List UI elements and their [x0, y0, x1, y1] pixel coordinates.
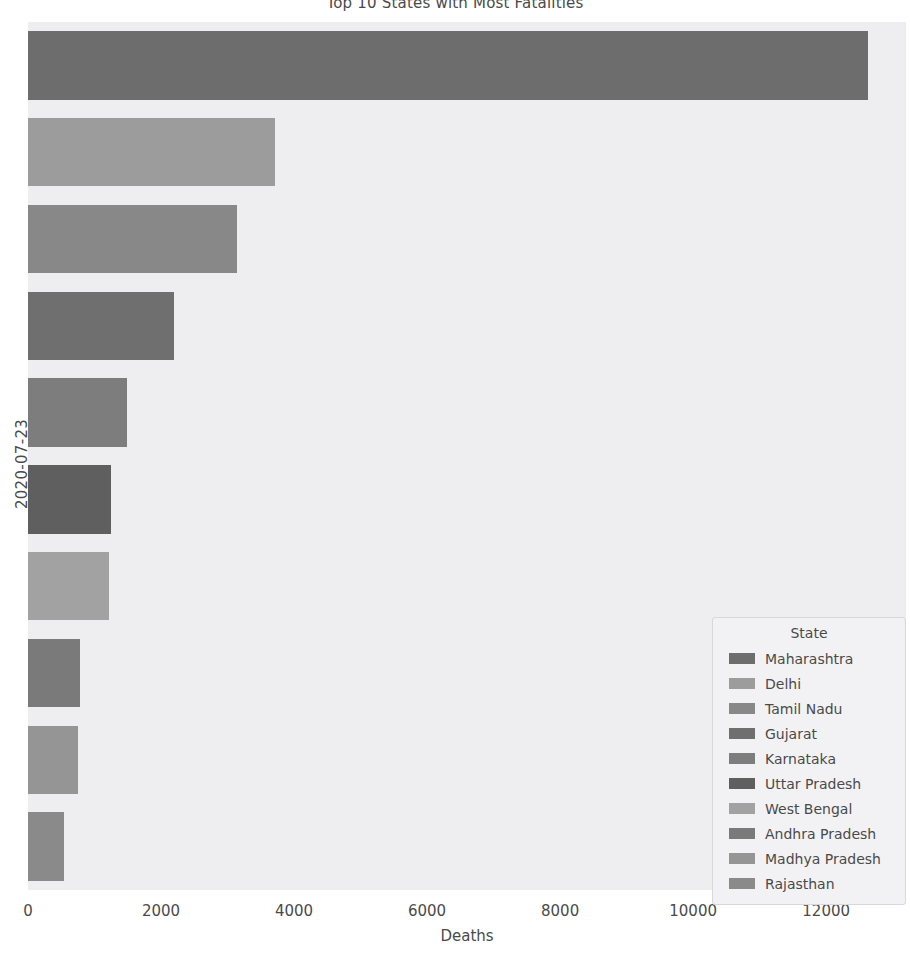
legend-item[interactable]: Delhi: [713, 671, 905, 696]
bar-delhi: [28, 118, 275, 187]
legend-item[interactable]: Tamil Nadu: [713, 696, 905, 721]
bar-gujarat: [28, 292, 174, 361]
x-axis-label: Deaths: [28, 927, 906, 945]
legend-item[interactable]: Gujarat: [713, 721, 905, 746]
legend-item-label: Uttar Pradesh: [765, 776, 861, 792]
legend-item-label: Maharashtra: [765, 651, 853, 667]
chart-figure: Top 10 States with Most Fatalities 2020-…: [0, 0, 910, 967]
legend-swatch-icon: [729, 703, 755, 714]
legend-swatch-icon: [729, 728, 755, 739]
legend-item-label: Rajasthan: [765, 876, 835, 892]
legend-swatch-icon: [729, 778, 755, 789]
x-tick-label: 6000: [408, 902, 446, 920]
legend-item[interactable]: West Bengal: [713, 796, 905, 821]
legend-item-label: Andhra Pradesh: [765, 826, 876, 842]
x-tick-label: 8000: [541, 902, 579, 920]
legend-swatch-icon: [729, 753, 755, 764]
bar-maharashtra: [28, 31, 868, 100]
x-tick-label: 4000: [275, 902, 313, 920]
legend-item[interactable]: Madhya Pradesh: [713, 846, 905, 871]
legend-item[interactable]: Uttar Pradesh: [713, 771, 905, 796]
bar-west-bengal: [28, 552, 109, 621]
legend-swatch-icon: [729, 828, 755, 839]
legend-swatch-icon: [729, 803, 755, 814]
legend-swatch-icon: [729, 853, 755, 864]
legend-item-label: West Bengal: [765, 801, 852, 817]
legend-item-label: Delhi: [765, 676, 801, 692]
bar-rajasthan: [28, 812, 64, 881]
bar-karnataka: [28, 378, 127, 447]
legend-item[interactable]: Karnataka: [713, 746, 905, 771]
legend-item-label: Tamil Nadu: [765, 701, 843, 717]
legend-swatch-icon: [729, 878, 755, 889]
legend-title: State: [713, 624, 905, 646]
legend-item[interactable]: Andhra Pradesh: [713, 821, 905, 846]
legend-item-label: Karnataka: [765, 751, 836, 767]
bar-andhra-pradesh: [28, 639, 80, 708]
legend-item[interactable]: Rajasthan: [713, 871, 905, 896]
legend-item-label: Madhya Pradesh: [765, 851, 881, 867]
chart-title: Top 10 States with Most Fatalities: [0, 0, 910, 12]
x-tick-label: 0: [23, 902, 33, 920]
bar-madhya-pradesh: [28, 726, 78, 795]
bar-uttar-pradesh: [28, 465, 111, 534]
legend-item-label: Gujarat: [765, 726, 817, 742]
legend: State MaharashtraDelhiTamil NaduGujaratK…: [712, 617, 906, 905]
x-tick-label: 2000: [142, 902, 180, 920]
legend-item[interactable]: Maharashtra: [713, 646, 905, 671]
bar-tamil-nadu: [28, 205, 237, 274]
legend-swatch-icon: [729, 678, 755, 689]
legend-swatch-icon: [729, 653, 755, 664]
x-tick-label: 10000: [669, 902, 717, 920]
